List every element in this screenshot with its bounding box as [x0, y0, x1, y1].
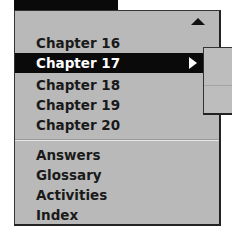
menu-item-activities[interactable]: Activities — [15, 185, 219, 205]
submenu-arrow-icon — [189, 57, 197, 69]
menu-item-chapter-17[interactable]: Chapter 17 — [15, 53, 219, 73]
chapter-17-submenu[interactable] — [203, 47, 232, 115]
menu-item-chapter-18[interactable]: Chapter 18 — [15, 75, 219, 95]
submenu-divider — [204, 85, 232, 86]
menu-item-answers[interactable]: Answers — [15, 145, 219, 165]
menu-item-chapter-16[interactable]: Chapter 16 — [15, 33, 219, 53]
menu-item-label: Chapter 17 — [36, 55, 120, 71]
menu-divider — [15, 139, 219, 141]
menu-item-glossary[interactable]: Glossary — [15, 165, 219, 185]
menu-item-chapter-19[interactable]: Chapter 19 — [15, 95, 219, 115]
scroll-up-arrow-icon[interactable] — [191, 18, 205, 25]
dropdown-menu: Chapter 16 Chapter 17 Chapter 18 Chapter… — [14, 10, 221, 226]
menu-item-chapter-20[interactable]: Chapter 20 — [15, 115, 219, 135]
menu-item-index[interactable]: Index — [15, 205, 219, 225]
